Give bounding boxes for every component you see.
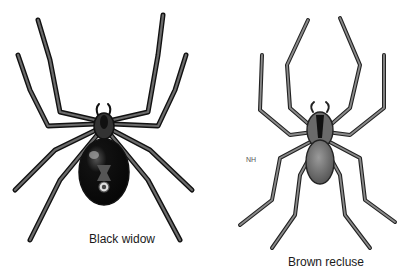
spider-drawings xyxy=(0,0,407,275)
black-widow-caption: Black widow xyxy=(89,232,155,246)
brown-recluse-drawing xyxy=(240,18,395,248)
artist-initials: NH xyxy=(246,156,256,163)
black-widow-drawing xyxy=(15,15,192,240)
spider-illustration: Black widow Brown recluse NH xyxy=(0,0,407,275)
brown-recluse-caption: Brown recluse xyxy=(288,255,364,269)
